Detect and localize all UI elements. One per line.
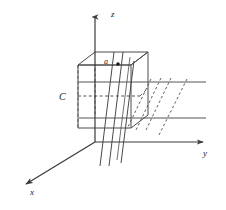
set-c-label: C <box>59 92 66 102</box>
slanted-solid-line-2 <box>109 52 123 166</box>
cube-hidden-back-right-edge <box>140 88 148 96</box>
y-axis-label: y <box>203 149 207 158</box>
slanted-dashed-line-3 <box>158 79 187 137</box>
slanted-planes-dashed <box>127 78 187 137</box>
z-axis-label: z <box>111 10 115 19</box>
geometry-figure: z y x C a <box>0 0 226 210</box>
slanted-planes-solid <box>100 52 134 166</box>
x-axis <box>26 142 95 184</box>
figure-canvas <box>0 0 226 210</box>
slanted-solid-line-1 <box>100 52 114 166</box>
horizontal-slab-lines <box>79 82 206 118</box>
point-a-label: a <box>104 58 108 66</box>
point-a-dot <box>116 62 119 65</box>
slanted-dashed-line-2 <box>146 78 171 130</box>
coordinate-axes <box>26 17 203 184</box>
x-axis-label: x <box>30 188 34 197</box>
cube-front-face <box>78 65 131 128</box>
